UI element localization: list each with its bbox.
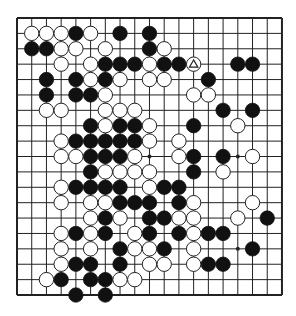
black-stone [245,242,259,256]
white-stone [54,257,68,271]
black-stone [216,226,230,240]
white-stone [98,103,112,117]
white-stone [128,149,142,163]
white-stone [113,103,127,117]
black-stone [172,180,186,194]
white-stone [186,195,200,209]
black-stone [83,149,97,163]
white-stone [245,195,259,209]
white-stone [128,242,142,256]
white-stone [157,257,171,271]
star-point [236,247,240,251]
white-stone [39,26,53,40]
white-stone [83,72,97,86]
black-stone [142,226,156,240]
black-stone [83,119,97,133]
black-stone [113,195,127,209]
white-stone [54,149,68,163]
black-stone [172,226,186,240]
white-stone [113,165,127,179]
white-stone [69,42,83,56]
white-stone [142,119,156,133]
white-stone [54,226,68,240]
white-stone [69,149,83,163]
white-stone [142,180,156,194]
white-stone [98,165,112,179]
black-stone [54,272,68,286]
black-stone [69,88,83,102]
black-stone [69,26,83,40]
white-stone [231,119,245,133]
white-stone [54,180,68,194]
black-stone [83,180,97,194]
white-stone [54,134,68,148]
white-stone [157,72,171,86]
black-stone [98,134,112,148]
black-stone [186,119,200,133]
white-stone [142,242,156,256]
white-stone [39,103,53,117]
black-stone [39,88,53,102]
black-stone [172,195,186,209]
black-stone [69,226,83,240]
white-stone [25,26,39,40]
white-stone [98,195,112,209]
white-stone [98,88,112,102]
white-stone [186,242,200,256]
black-stone [113,257,127,271]
black-stone [142,42,156,56]
black-stone [39,72,53,86]
black-stone [83,165,97,179]
black-stone [98,211,112,225]
black-stone [245,57,259,71]
white-stone [98,42,112,56]
black-stone [83,257,97,271]
white-stone [142,57,156,71]
black-stone [128,119,142,133]
black-stone [157,57,171,71]
black-stone [113,134,127,148]
white-stone [113,72,127,86]
black-stone [128,195,142,209]
star-point [236,155,240,159]
black-stone [83,88,97,102]
black-stone [113,57,127,71]
white-stone [54,42,68,56]
black-stone [113,180,127,194]
black-stone [113,149,127,163]
black-stone [172,57,186,71]
white-stone [142,72,156,86]
white-stone [142,257,156,271]
black-stone [113,242,127,256]
black-stone [98,72,112,86]
black-stone [128,57,142,71]
go-board[interactable] [0,0,296,316]
white-stone [83,26,97,40]
black-stone [142,195,156,209]
black-stone [231,57,245,71]
black-stone [201,72,215,86]
black-stone [113,26,127,40]
black-stone [98,149,112,163]
white-stone [54,26,68,40]
black-stone [128,134,142,148]
white-stone [186,226,200,240]
black-stone [201,257,215,271]
white-stone [201,88,215,102]
white-stone [172,134,186,148]
black-stone [201,226,215,240]
white-stone [157,42,171,56]
black-stone [260,211,274,225]
black-stone [83,134,97,148]
stones-layer[interactable] [25,26,275,302]
white-stone [54,195,68,209]
white-stone [83,242,97,256]
white-stone [39,272,53,286]
white-stone [142,165,156,179]
black-stone [113,119,127,133]
black-stone [157,211,171,225]
white-stone [54,242,68,256]
black-stone [142,211,156,225]
black-stone [245,103,259,117]
white-stone [128,165,142,179]
